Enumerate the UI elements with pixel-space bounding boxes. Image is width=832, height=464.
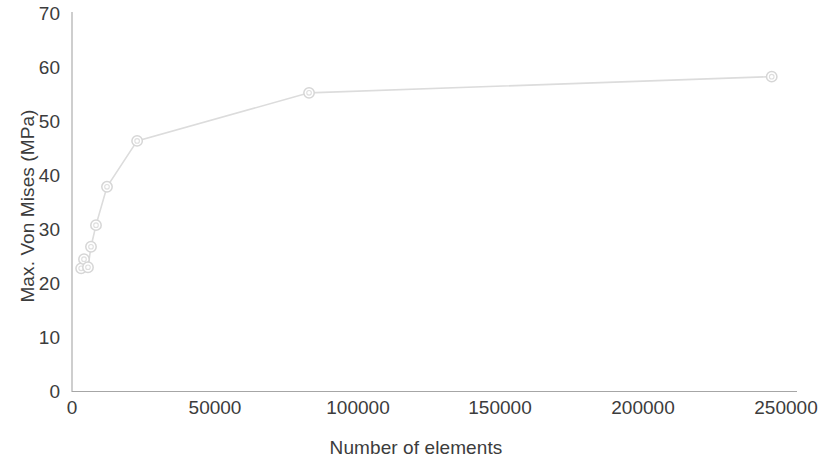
data-point-marker[interactable] <box>304 88 314 98</box>
series-line <box>81 77 772 269</box>
series-group <box>76 71 777 273</box>
axis-group <box>72 12 797 392</box>
data-point-marker[interactable] <box>132 136 142 146</box>
plot-area <box>0 0 832 464</box>
data-point-marker[interactable] <box>102 182 112 192</box>
data-point-marker[interactable] <box>767 71 777 81</box>
data-point-marker[interactable] <box>83 262 93 272</box>
data-point-marker[interactable] <box>86 242 96 252</box>
data-point-marker[interactable] <box>91 220 101 230</box>
chart-container: Max. Von Mises (MPa) 70 60 50 40 30 20 1… <box>0 0 832 464</box>
